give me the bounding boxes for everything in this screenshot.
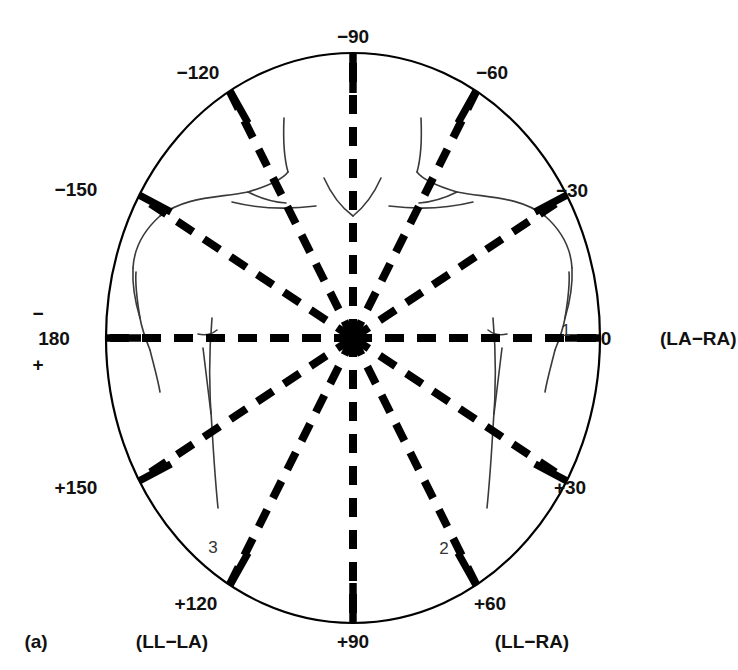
lead-label-2: 2 xyxy=(439,540,448,557)
axis-label-minus-150: −150 xyxy=(55,180,98,199)
axis-label-minus-30: −30 xyxy=(556,181,588,200)
polarity-plus-sign: + xyxy=(32,355,43,374)
derivation-label-ll-la: (LL−LA) xyxy=(136,632,208,651)
axis-label-minus-90: −90 xyxy=(337,27,369,46)
polarity-minus-sign: − xyxy=(32,304,43,323)
axis-label-plus-30: +30 xyxy=(554,478,586,497)
center-dot xyxy=(341,326,366,351)
axis-label-minus-120: −120 xyxy=(177,63,220,82)
axis-label-plus-90: +90 xyxy=(337,632,369,651)
axis-label-180: 180 xyxy=(38,329,70,348)
lead-label-3: 3 xyxy=(208,539,217,556)
panel-label: (a) xyxy=(24,632,47,651)
derivation-label-ll-ra: (LL−RA) xyxy=(495,632,569,651)
axis-label-0: 0 xyxy=(601,329,612,348)
axis-label-plus-150: +150 xyxy=(55,478,98,497)
hexaxial-diagram xyxy=(0,0,738,670)
axis-label-plus-60: +60 xyxy=(474,594,506,613)
lead-label-1: 1 xyxy=(561,322,570,339)
axis-label-minus-60: −60 xyxy=(476,63,508,82)
axis-label-plus-120: +120 xyxy=(175,594,218,613)
derivation-label-la-ra: (LA−RA) xyxy=(660,329,737,348)
